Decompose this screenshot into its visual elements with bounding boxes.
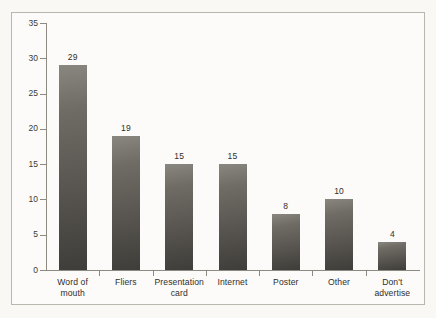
bar [272, 214, 300, 270]
x-axis-category-label: Poster [259, 277, 312, 288]
y-axis-tick [40, 94, 46, 95]
bar [165, 164, 193, 270]
y-axis-line [46, 23, 47, 271]
x-axis-tick [312, 271, 313, 276]
y-axis-tick [40, 129, 46, 130]
bar-value-label: 10 [319, 186, 359, 196]
y-axis-tick-label: 10 [14, 195, 38, 204]
x-axis-tick [259, 271, 260, 276]
x-axis-category-label: Word ofmouth [46, 277, 99, 299]
bar-value-label: 29 [53, 52, 93, 62]
x-axis-category-label: Don't advertise [366, 277, 419, 299]
y-axis-tick [40, 58, 46, 59]
x-axis-category-label: Internet [206, 277, 259, 288]
bar [325, 199, 353, 270]
y-axis-tick [40, 199, 46, 200]
x-axis-tick [206, 271, 207, 276]
bar [112, 136, 140, 270]
y-axis-tick [40, 270, 46, 271]
y-axis-tick-label: 20 [14, 124, 38, 133]
bar-value-label: 4 [372, 229, 412, 239]
x-axis-tick [153, 271, 154, 276]
bar-value-label: 19 [106, 123, 146, 133]
x-axis-category-label: Other [312, 277, 365, 288]
bar-value-label: 15 [159, 151, 199, 161]
y-axis-tick-label: 15 [14, 160, 38, 169]
bar [378, 242, 406, 270]
y-axis-tick-label: 25 [14, 89, 38, 98]
x-axis-category-label: Fliers [99, 277, 152, 288]
x-axis-tick [99, 271, 100, 276]
bar-value-label: 8 [266, 201, 306, 211]
y-axis-tick-label: 0 [14, 266, 38, 275]
y-axis-tick-label: 30 [14, 54, 38, 63]
y-axis-tick-label: 35 [14, 19, 38, 28]
y-axis-tick [40, 164, 46, 165]
chart-figure: 05101520253035 291915158104 Word ofmouth… [0, 0, 436, 318]
x-axis-line [46, 270, 420, 271]
y-axis-tick-label: 5 [14, 230, 38, 239]
x-axis-tick [366, 271, 367, 276]
y-axis-tick [40, 23, 46, 24]
bar-value-label: 15 [213, 151, 253, 161]
x-axis-category-label: Presentationcard [153, 277, 206, 299]
y-axis-tick [40, 235, 46, 236]
bar [59, 65, 87, 270]
bar [219, 164, 247, 270]
